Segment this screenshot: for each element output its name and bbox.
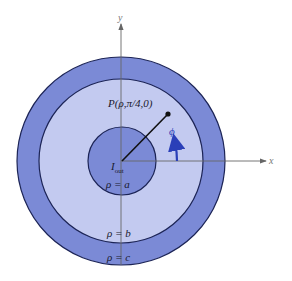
rho-b-label: ρ = b [106,227,131,239]
diagram-canvas: y x P(ρ,π/4,0) ϕ Iout ρ = a ρ = b ρ = c [0,0,292,281]
phi-label: ϕ [169,125,175,137]
point-p-dot [165,111,170,116]
point-p-label: P(ρ,π/4,0) [107,97,153,110]
y-axis-label: y [117,12,123,23]
rho-a-label: ρ = a [105,178,130,190]
x-axis-label: x [268,155,274,166]
rho-c-label: ρ = c [106,251,130,263]
coax-diagram: y x P(ρ,π/4,0) ϕ Iout ρ = a ρ = b ρ = c [0,0,292,281]
